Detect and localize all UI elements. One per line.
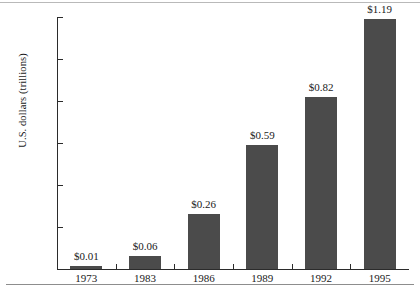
x-tick-label: 1986 <box>174 273 234 284</box>
bar <box>129 256 161 269</box>
bar-value-label: $0.26 <box>174 199 234 210</box>
y-axis-label: U.S. dollars (trillions) <box>17 21 28 181</box>
bar-value-label: $0.01 <box>56 251 116 262</box>
top-divider <box>0 2 420 3</box>
plot-area <box>57 17 409 269</box>
x-tick-label: 1995 <box>350 273 410 284</box>
x-tick-label: 1992 <box>291 273 351 284</box>
x-tick-label: 1973 <box>56 273 116 284</box>
bar-value-label: $0.82 <box>291 82 351 93</box>
bar <box>188 214 220 269</box>
bar <box>246 145 278 269</box>
bar-value-label: $0.06 <box>115 241 175 252</box>
bar <box>364 19 396 269</box>
x-tick-label: 1989 <box>232 273 292 284</box>
bar-value-label: $1.19 <box>350 4 410 15</box>
x-tick-label: 1983 <box>115 273 175 284</box>
bottom-divider <box>6 284 414 285</box>
bar-value-label: $0.59 <box>232 130 292 141</box>
bar-chart-figure: U.S. dollars (trillions) 0.200.400.600.8… <box>0 0 420 294</box>
bar <box>305 97 337 269</box>
bar <box>70 266 102 269</box>
